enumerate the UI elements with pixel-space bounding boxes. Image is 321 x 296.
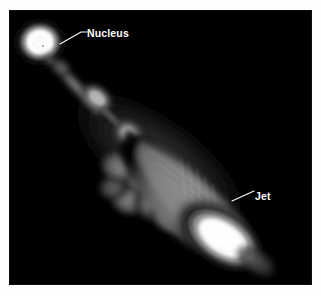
astronomical-figure: Nucleus Jet	[0, 0, 321, 296]
sky-image	[9, 10, 312, 285]
image-plate: Nucleus Jet	[9, 10, 312, 285]
